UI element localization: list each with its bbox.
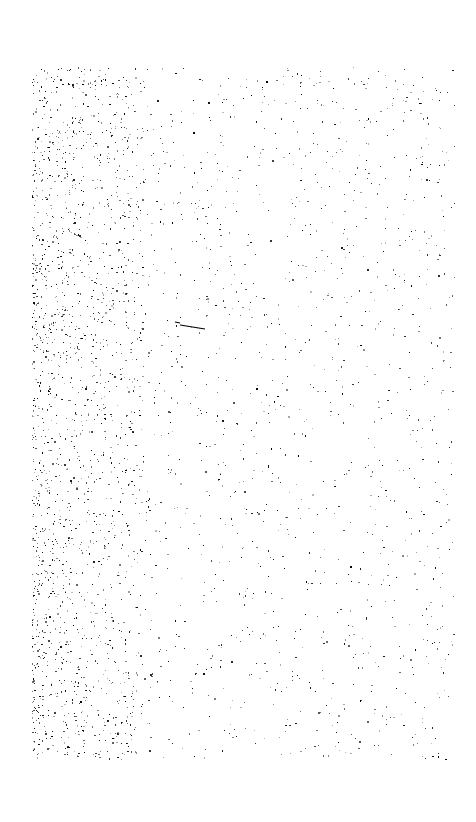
speckle-noise-area: [32, 67, 455, 760]
speckle-canvas: [32, 67, 455, 760]
scanned-page: [0, 0, 476, 822]
